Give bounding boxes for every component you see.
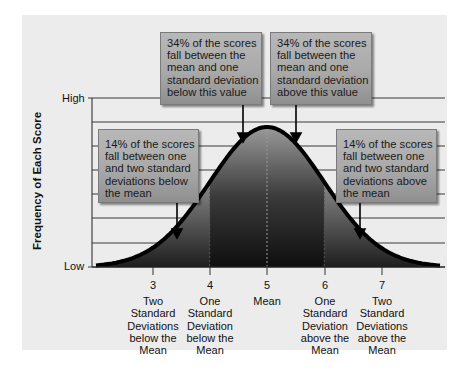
callout-14-above: 14% of the scores fall between one and t… <box>336 129 437 203</box>
callout-14-below: 14% of the scores fall between one and t… <box>98 129 199 203</box>
x-label-7: 7 TwoStandardDeviationsabove theMean <box>347 279 417 356</box>
callout-34-above: 34% of the scores fall between the mean … <box>270 32 372 105</box>
y-axis-title: Frequency of Each Score <box>31 112 43 250</box>
callout-34-below: 34% of the scores fall between the mean … <box>160 32 262 105</box>
y-label-low: Low <box>64 260 84 272</box>
x-ticks <box>153 267 382 275</box>
y-label-high: High <box>62 92 85 104</box>
